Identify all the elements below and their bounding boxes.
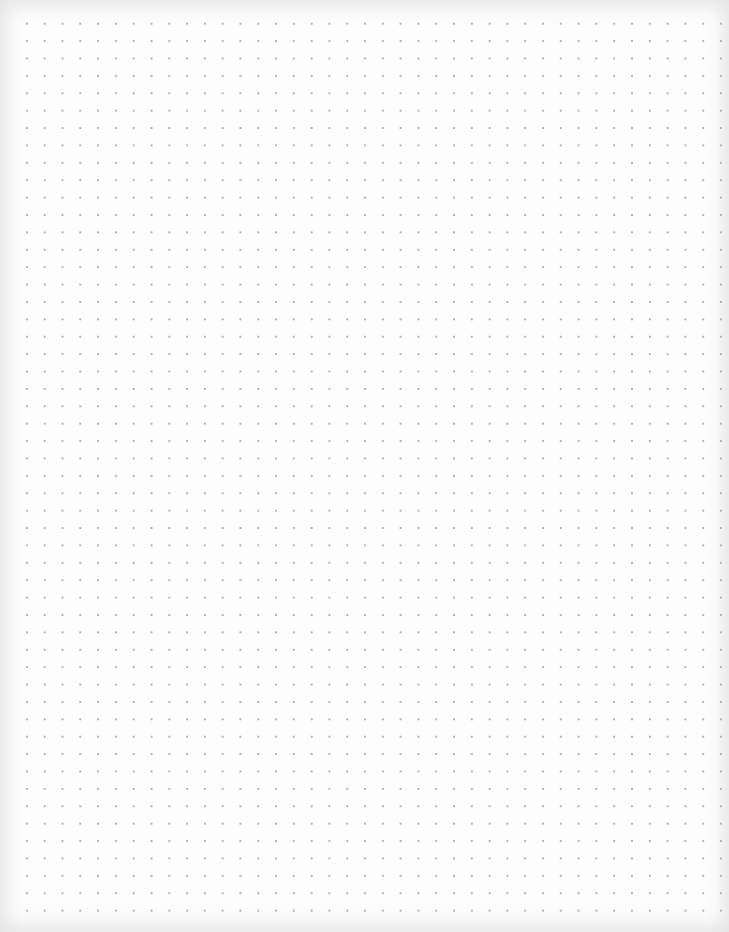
dot-grid-pattern [18, 15, 729, 920]
dot-grid-page [0, 0, 729, 932]
